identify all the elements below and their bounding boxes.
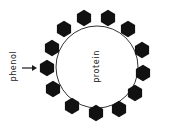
phenol-label: phenol <box>9 52 18 82</box>
phenol-hexagon <box>57 21 71 37</box>
protein-phenol-diagram <box>0 0 172 130</box>
phenol-hexagon <box>40 60 54 76</box>
phenol-hexagon <box>46 81 60 97</box>
protein-label: protein <box>92 47 101 87</box>
phenol-hexagon <box>128 85 142 101</box>
phenol-hexagon <box>45 40 59 56</box>
phenol-hexagon <box>112 101 126 117</box>
phenol-hexagon <box>77 10 91 26</box>
arrow-icon <box>22 65 37 71</box>
phenol-hexagon <box>101 10 115 26</box>
phenol-hexagon <box>65 98 79 114</box>
phenol-hexagon <box>135 42 149 58</box>
